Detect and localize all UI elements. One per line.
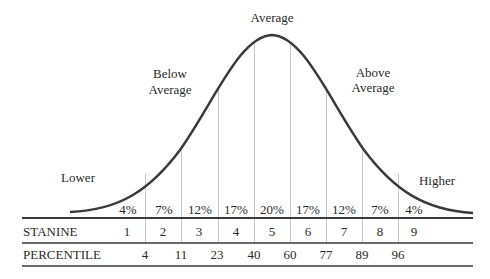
label-below-average-line2: Average: [144, 83, 196, 97]
bell-curve: [70, 35, 473, 213]
stanine-3: 3: [181, 225, 217, 239]
stanine-8: 8: [362, 225, 398, 239]
percentage-stanine-7: 12%: [326, 203, 362, 217]
percentile-boundary-4-5: 40: [236, 248, 272, 262]
stanine-6: 6: [290, 225, 326, 239]
percentile-boundary-6-7: 77: [308, 248, 344, 262]
stanine-9: 9: [396, 225, 432, 239]
percentile-boundary-7-8: 89: [344, 248, 380, 262]
percentage-stanine-3: 12%: [182, 203, 218, 217]
percentage-stanine-2: 7%: [146, 203, 182, 217]
stanine-1: 1: [109, 225, 145, 239]
percentile-boundary-2-3: 11: [163, 248, 199, 262]
percentage-stanine-6: 17%: [290, 203, 326, 217]
label-below-average-line1: Below: [144, 67, 196, 81]
label-above-average-line2: Average: [347, 81, 399, 95]
label-average: Average: [246, 11, 298, 25]
percentile-row-label: PERCENTILE: [23, 248, 101, 262]
percentile-boundary-1-2: 4: [127, 248, 163, 262]
stanine-2: 2: [145, 225, 181, 239]
percentile-boundary-5-6: 60: [272, 248, 308, 262]
percentage-stanine-9: 4%: [396, 203, 432, 217]
label-higher: Higher: [415, 174, 459, 188]
percentile-boundary-8-9: 96: [380, 248, 416, 262]
stanine-5: 5: [254, 225, 290, 239]
percentage-stanine-5: 20%: [254, 203, 290, 217]
percentage-stanine-8: 7%: [362, 203, 398, 217]
stanine-row-label: STANINE: [23, 225, 78, 239]
percentile-boundary-3-4: 23: [199, 248, 235, 262]
percentage-stanine-1: 4%: [110, 203, 146, 217]
label-above-average-line1: Above: [347, 66, 399, 80]
stanine-7: 7: [326, 225, 362, 239]
stanine-4: 4: [218, 225, 254, 239]
percentage-stanine-4: 17%: [218, 203, 254, 217]
label-lower: Lower: [56, 171, 100, 185]
